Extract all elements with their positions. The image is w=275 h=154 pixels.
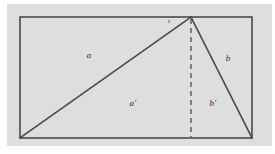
label-a-prime-mark: ' [134, 98, 136, 108]
label-a-prime: a' [130, 99, 137, 108]
label-b-prime: b' [210, 99, 217, 108]
triangle-right-side [191, 17, 252, 138]
figure-drawing-canvas [0, 0, 275, 154]
label-b-text: b [226, 53, 231, 63]
triangle-left-side [20, 17, 191, 138]
label-a-text: a [87, 50, 92, 60]
bounding-rectangle [20, 17, 252, 138]
geometry-figure: a a' b b' [0, 0, 275, 154]
label-a: a [87, 51, 92, 60]
label-b-prime-mark: ' [214, 98, 216, 108]
label-b: b [226, 54, 231, 63]
